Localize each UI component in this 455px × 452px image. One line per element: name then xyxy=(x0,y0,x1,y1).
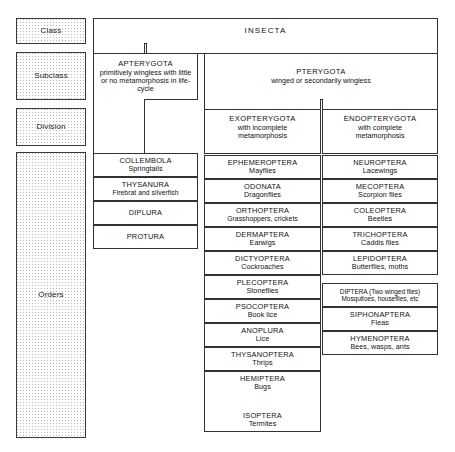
rank-label-division-text: Division xyxy=(36,123,65,132)
order-box-plecoptera: PLECOPTERA Stoneflies xyxy=(204,275,321,299)
order-thysanura-name: THYSANURA xyxy=(122,181,169,189)
order-ephemeroptera-common: Mayflies xyxy=(249,167,276,175)
order-box-siphonaptera: SIPHONAPTERA Fleas xyxy=(322,307,438,331)
order-plecoptera-common: Stoneflies xyxy=(246,287,278,295)
order-box-trichoptera: TRICHOPTERA Caddis flies xyxy=(322,227,438,251)
class-box-insecta: INSECTA xyxy=(93,18,438,44)
order-box-anoplura: ANOPLURA Lice xyxy=(204,323,321,347)
order-box-hemiptera: HEMIPTERA Bugs xyxy=(204,371,321,395)
connector-exopterygota-to-orders xyxy=(204,145,321,154)
order-lepidoptera-common: Butterflies, moths xyxy=(352,263,408,271)
order-box-coleoptera: COLEOPTERA Beetles xyxy=(322,203,438,227)
order-box-protura: PROTURA xyxy=(93,225,198,249)
order-box-ephemeroptera: EPHEMEROPTERA Mayflies xyxy=(204,155,321,179)
order-box-dictyoptera: DICTYOPTERA Cockroaches xyxy=(204,251,321,275)
rank-label-orders: Orders xyxy=(16,152,86,438)
subclass-pterygota-description: winged or secondarily wingless xyxy=(269,77,373,85)
division-exopterygota-description-line2: metamorphosis xyxy=(238,132,287,140)
rank-label-class: Class xyxy=(16,18,86,44)
insect-classification-diagram: Class Subclass Division Orders INSECTA A… xyxy=(0,0,455,452)
order-hemiptera-common: Bugs xyxy=(254,383,271,391)
order-box-neuroptera: NEUROPTERA Lacewings xyxy=(322,155,438,179)
division-box-endopterygota: ENDOPTERYGOTA with complete metamorphosi… xyxy=(322,109,438,146)
order-protura-name: PROTURA xyxy=(127,233,165,241)
order-box-thysanura: THYSANURA Firebrat and silverfish xyxy=(93,177,198,201)
class-box-insecta-name: INSECTA xyxy=(245,27,287,36)
order-psocoptera-common: Book lice xyxy=(248,311,278,319)
order-box-diplura: DIPLURA xyxy=(93,201,198,225)
rank-label-division: Division xyxy=(16,108,86,146)
connector-endopterygota-to-orders xyxy=(322,145,438,154)
subclass-box-pterygota: PTERYGOTA winged or secondarily wingless xyxy=(204,53,438,100)
rank-label-subclass: Subclass xyxy=(16,52,86,100)
order-box-lepidoptera: LEPIDOPTERA Butterflies, moths xyxy=(322,251,438,275)
order-thysanura-common: Firebrat and silverfish xyxy=(112,189,178,197)
order-mecoptera-common: Scorpion flies xyxy=(358,191,402,199)
order-box-mecoptera: MECOPTERA Scorpion flies xyxy=(322,179,438,203)
division-endopterygota-description-line2: metamorphosis xyxy=(355,132,404,140)
spine-exopterygota-orders xyxy=(204,394,321,409)
order-diptera-common: Mosquitoes, houseflies, etc xyxy=(341,295,418,302)
order-dermaptera-common: Earwigs xyxy=(250,239,276,247)
order-orthoptera-common: Grasshoppers, crickets xyxy=(227,215,298,223)
order-neuroptera-common: Lacewings xyxy=(363,167,397,175)
rank-label-subclass-text: Subclass xyxy=(34,72,68,81)
order-coleoptera-common: Beetles xyxy=(368,215,392,223)
order-siphonaptera-common: Fleas xyxy=(371,319,389,327)
order-diplura-name: DIPLURA xyxy=(129,209,162,217)
order-box-hymenoptera: HYMENOPTERA Bees, wasps, ants xyxy=(322,331,438,355)
order-trichoptera-common: Caddis flies xyxy=(361,239,399,247)
order-diptera-name: DIPTERA (Two winged flies) xyxy=(340,288,420,295)
rank-label-class-text: Class xyxy=(41,27,62,36)
order-anoplura-common: Lice xyxy=(256,335,269,343)
subclass-apterygota-description: primitively wingless with little or no m… xyxy=(94,69,197,93)
order-box-odonata: ODONATA Dragonflies xyxy=(204,179,321,203)
order-box-isoptera: ISOPTERA Termites xyxy=(204,408,321,432)
order-box-psocoptera: PSOCOPTERA Book lice xyxy=(204,299,321,323)
order-hymenoptera-common: Bees, wasps, ants xyxy=(350,343,409,351)
division-box-exopterygota: EXOPTERYGOTA with incomplete metamorphos… xyxy=(204,109,321,146)
order-box-thysanoptera: THYSANOPTERA Thrips xyxy=(204,347,321,371)
order-box-diptera: DIPTERA (Two winged flies) Mosquitoes, h… xyxy=(322,283,438,307)
order-box-orthoptera: ORTHOPTERA Grasshoppers, crickets xyxy=(204,203,321,227)
order-box-collembola: COLLEMBOLA Springtails xyxy=(93,153,198,177)
order-isoptera-common: Termites xyxy=(249,420,277,428)
rank-label-orders-text: Orders xyxy=(38,291,63,300)
connector-apterygota-to-orders xyxy=(93,99,145,153)
order-odonata-common: Dragonflies xyxy=(244,191,281,199)
order-box-dermaptera: DERMAPTERA Earwigs xyxy=(204,227,321,251)
order-thysanoptera-common: Thrips xyxy=(252,359,272,367)
order-orthoptera-name: ORTHOPTERA xyxy=(236,207,289,215)
subclass-box-apterygota: APTERYGOTA primitively wingless with lit… xyxy=(93,53,198,100)
order-dictyoptera-common: Cockroaches xyxy=(241,263,284,271)
order-collembola-common: Springtails xyxy=(128,165,162,173)
